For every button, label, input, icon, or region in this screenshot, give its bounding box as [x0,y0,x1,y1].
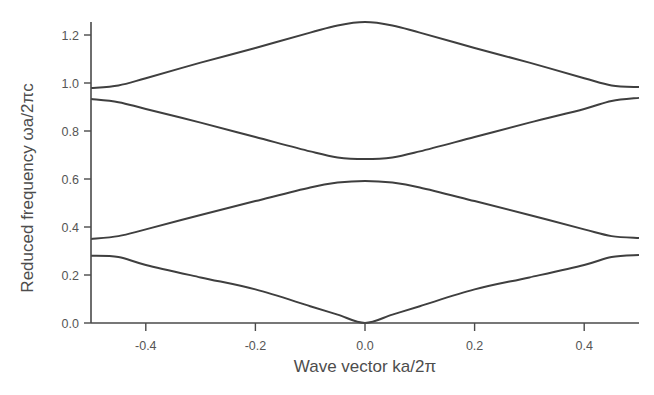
x-tick-label: -0.4 [135,339,157,353]
band-curve [91,255,639,323]
y-axis-label: Reduced frequency ωa/2πc [18,83,37,293]
y-tick-label: 0.8 [62,125,79,139]
band-structure-chart: 0.00.20.40.60.81.01.2 -0.4-0.20.00.20.4 … [0,0,654,395]
y-tick-label: 0.2 [62,269,79,283]
x-tick-label: 0.2 [466,339,483,353]
band-curve [91,22,639,88]
y-tick-label: 0.6 [62,173,79,187]
x-axis-label: Wave vector ka/2π [294,357,436,376]
y-tick-label: 0.0 [62,317,79,331]
x-tick-label: 0.4 [576,339,593,353]
x-ticks: -0.4-0.20.00.20.4 [135,323,593,353]
dispersion-curves [91,22,639,323]
y-tick-label: 0.4 [62,221,79,235]
x-tick-label: -0.2 [245,339,267,353]
y-ticks: 0.00.20.40.60.81.01.2 [62,29,91,331]
band-curve [91,98,639,159]
y-tick-label: 1.2 [62,29,79,43]
x-tick-label: 0.0 [356,339,373,353]
y-tick-label: 1.0 [62,77,79,91]
band-curve [91,181,639,239]
